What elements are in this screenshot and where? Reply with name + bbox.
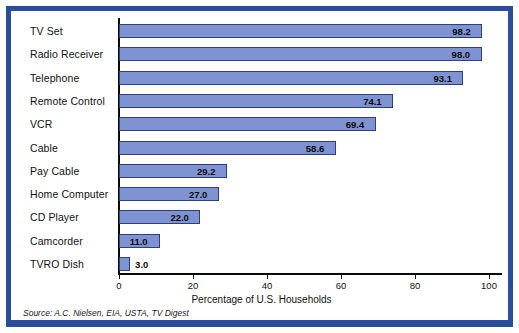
chart-figure: TV Set98.2Radio Receiver98.0Telephone93.… (0, 0, 519, 333)
source-note: Source: A.C. Nielsen, EIA, USTA, TV Dige… (23, 308, 189, 318)
bar-row: Telephone93.1 (11, 66, 512, 90)
x-tick (415, 275, 416, 279)
bar-value-label: 98.0 (452, 49, 471, 60)
bar-value-label: 3.0 (135, 259, 148, 270)
category-label: Cable (30, 142, 58, 154)
x-tick-label: 60 (336, 280, 347, 291)
bar (119, 94, 393, 108)
source-text: Source: A.C. Nielsen, EIA, USTA, TV Dige… (23, 308, 189, 318)
x-tick (193, 275, 194, 279)
bar (119, 47, 482, 61)
bar (119, 24, 482, 38)
category-label: Telephone (30, 72, 79, 84)
bar (119, 257, 130, 271)
bar-row: Home Computer27.0 (11, 182, 512, 206)
x-tick (341, 275, 342, 279)
plot-area: TV Set98.2Radio Receiver98.0Telephone93.… (11, 11, 512, 324)
bar-value-label: 98.2 (452, 26, 471, 37)
bar-value-label: 11.0 (130, 235, 148, 246)
bar-row: Cable58.6 (11, 136, 512, 160)
x-tick-label: 100 (481, 280, 497, 291)
x-tick (119, 275, 120, 279)
category-label: TV Set (30, 25, 63, 37)
x-axis-label: Percentage of U.S. Households (11, 294, 512, 305)
category-label: Camcorder (30, 235, 83, 247)
chart-card: TV Set98.2Radio Receiver98.0Telephone93.… (9, 9, 510, 322)
bar-value-label: 27.0 (189, 189, 208, 200)
bar (119, 141, 336, 155)
bar (119, 117, 376, 131)
category-label: Home Computer (30, 188, 108, 200)
bar-value-label: 74.1 (363, 95, 382, 106)
x-tick-label: 40 (262, 280, 273, 291)
category-label: Remote Control (30, 95, 105, 107)
bar-row: CD Player22.0 (11, 205, 512, 229)
bar-row: Radio Receiver98.0 (11, 42, 512, 66)
x-tick (267, 275, 268, 279)
bar-value-label: 69.4 (346, 119, 365, 130)
bar-row: Pay Cable29.2 (11, 159, 512, 183)
x-tick-label: 20 (188, 280, 199, 291)
category-label: Radio Receiver (30, 48, 103, 60)
bar-row: TV Set98.2 (11, 19, 512, 43)
bar-value-label: 29.2 (197, 165, 216, 176)
bar-value-label: 93.1 (433, 72, 452, 83)
category-label: TVRO Dish (30, 258, 84, 270)
x-tick-label: 80 (410, 280, 421, 291)
x-tick (489, 275, 490, 279)
category-label: Pay Cable (30, 165, 79, 177)
bar-row: VCR69.4 (11, 112, 512, 136)
bar-value-label: 22.0 (170, 212, 189, 223)
bar-row: Camcorder11.0 (11, 229, 512, 253)
category-label: CD Player (30, 211, 79, 223)
bar-value-label: 58.6 (306, 142, 325, 153)
bar (119, 71, 463, 85)
bar-row: Remote Control74.1 (11, 89, 512, 113)
category-label: VCR (30, 118, 52, 130)
bar-row: TVRO Dish3.0 (11, 252, 512, 276)
x-tick-label: 0 (116, 280, 121, 291)
